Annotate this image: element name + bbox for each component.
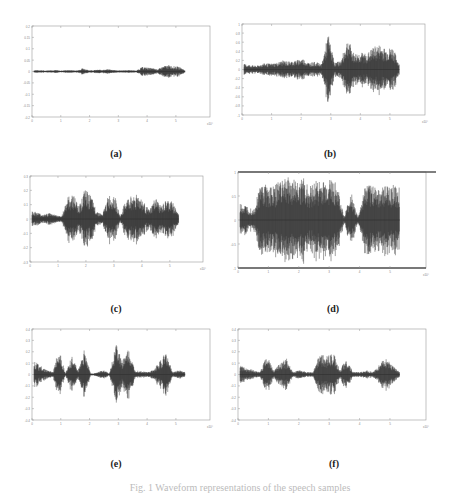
svg-text:x10⁴: x10⁴ [207, 122, 214, 126]
svg-text:0.2: 0.2 [236, 59, 241, 63]
svg-text:0.4: 0.4 [232, 328, 237, 332]
waveform-plot-b: -1-0.8-0.6-0.4-0.200.20.40.60.81012345x1… [232, 20, 437, 125]
svg-text:0: 0 [31, 119, 33, 123]
svg-text:2: 2 [85, 264, 87, 268]
svg-text:4: 4 [146, 119, 148, 123]
svg-text:1: 1 [268, 270, 270, 274]
svg-text:4: 4 [146, 422, 148, 426]
svg-text:3: 3 [328, 422, 330, 426]
waveform-panel-d: -1-0.500.51012345x10⁴ [228, 168, 438, 278]
svg-text:-0.4: -0.4 [231, 419, 237, 423]
svg-text:0.8: 0.8 [236, 32, 241, 36]
svg-text:0: 0 [237, 422, 239, 426]
svg-text:0.2: 0.2 [232, 350, 237, 354]
svg-text:0: 0 [234, 373, 236, 377]
svg-text:-0.4: -0.4 [235, 86, 241, 90]
svg-text:4: 4 [141, 264, 143, 268]
svg-text:-0.6: -0.6 [235, 95, 241, 99]
svg-text:3: 3 [330, 117, 332, 121]
waveform-plot-d: -1-0.500.51012345x10⁴ [228, 168, 438, 278]
svg-text:0.4: 0.4 [236, 50, 241, 54]
svg-text:-0.3: -0.3 [25, 407, 31, 411]
svg-text:2: 2 [89, 119, 91, 123]
svg-text:0: 0 [28, 70, 30, 74]
svg-text:0.2: 0.2 [26, 25, 31, 29]
svg-text:3: 3 [117, 119, 119, 123]
svg-text:0.6: 0.6 [236, 41, 241, 45]
waveform-panel-f: -0.4-0.3-0.2-0.100.10.20.30.4012345x10⁴ [228, 325, 438, 430]
panel-label-e: (e) [96, 458, 136, 469]
svg-text:x10⁴: x10⁴ [207, 425, 214, 429]
svg-text:0: 0 [234, 219, 236, 223]
svg-text:-0.05: -0.05 [23, 81, 30, 85]
svg-text:5: 5 [389, 422, 391, 426]
svg-text:-0.5: -0.5 [231, 243, 237, 247]
svg-text:0.2: 0.2 [26, 350, 31, 354]
svg-text:-0.3: -0.3 [231, 407, 237, 411]
svg-text:-0.3: -0.3 [23, 261, 29, 265]
svg-text:5: 5 [175, 422, 177, 426]
svg-text:0.1: 0.1 [24, 203, 29, 207]
svg-text:1: 1 [238, 23, 240, 27]
svg-text:0.3: 0.3 [26, 339, 31, 343]
svg-text:-0.2: -0.2 [23, 246, 29, 250]
svg-text:-0.1: -0.1 [25, 93, 31, 97]
svg-text:0: 0 [28, 373, 30, 377]
svg-text:0: 0 [26, 218, 28, 222]
panel-label-b: (b) [310, 148, 350, 159]
waveform-panel-b: -1-0.8-0.6-0.4-0.200.20.40.60.81012345x1… [232, 20, 437, 125]
svg-text:-0.1: -0.1 [25, 384, 31, 388]
svg-text:3: 3 [117, 422, 119, 426]
svg-text:-0.2: -0.2 [25, 396, 31, 400]
waveform-plot-a: -0.2-0.15-0.1-0.0500.050.10.150.2012345x… [22, 22, 222, 127]
figure-caption: Fig. 1 Waveform representations of the s… [60, 482, 420, 493]
svg-text:2: 2 [298, 422, 300, 426]
svg-text:4: 4 [359, 422, 361, 426]
svg-text:-0.2: -0.2 [231, 396, 237, 400]
svg-text:0.15: 0.15 [24, 36, 30, 40]
svg-text:x10⁴: x10⁴ [422, 120, 429, 124]
svg-text:5: 5 [389, 270, 391, 274]
svg-text:0.1: 0.1 [26, 362, 31, 366]
svg-text:5: 5 [389, 117, 391, 121]
svg-text:0: 0 [237, 270, 239, 274]
svg-text:0.3: 0.3 [24, 175, 29, 179]
svg-text:4: 4 [359, 270, 361, 274]
svg-text:4: 4 [360, 117, 362, 121]
svg-text:x10⁴: x10⁴ [423, 425, 430, 429]
waveform-panel-c: -0.3-0.2-0.100.10.20.3012345x10⁴ [20, 172, 215, 272]
svg-text:2: 2 [89, 422, 91, 426]
svg-text:5: 5 [169, 264, 171, 268]
svg-text:-1: -1 [237, 114, 240, 118]
panel-label-f: (f) [314, 458, 354, 469]
svg-text:-0.8: -0.8 [235, 104, 241, 108]
svg-text:2: 2 [298, 270, 300, 274]
svg-text:3: 3 [328, 270, 330, 274]
waveform-panel-a: -0.2-0.15-0.1-0.0500.050.10.150.2012345x… [22, 22, 222, 127]
waveform-panel-e: -0.4-0.3-0.2-0.100.10.20.30.4012345x10⁴ [22, 325, 222, 430]
svg-text:0.4: 0.4 [26, 328, 31, 332]
svg-text:0: 0 [238, 68, 240, 72]
svg-text:1: 1 [271, 117, 273, 121]
svg-text:3: 3 [113, 264, 115, 268]
waveform-plot-f: -0.4-0.3-0.2-0.100.10.20.30.4012345x10⁴ [228, 325, 438, 430]
svg-text:-0.1: -0.1 [23, 232, 29, 236]
waveform-plot-e: -0.4-0.3-0.2-0.100.10.20.30.4012345x10⁴ [22, 325, 222, 430]
svg-text:1: 1 [60, 422, 62, 426]
svg-text:0.3: 0.3 [232, 339, 237, 343]
svg-text:2: 2 [300, 117, 302, 121]
svg-text:-1: -1 [233, 267, 236, 271]
svg-text:1: 1 [268, 422, 270, 426]
svg-text:0.05: 0.05 [24, 59, 30, 63]
svg-text:-0.2: -0.2 [25, 116, 31, 120]
svg-text:x10⁴: x10⁴ [200, 267, 207, 271]
panel-label-a: (a) [96, 148, 136, 159]
svg-text:0.2: 0.2 [24, 189, 29, 193]
svg-text:-0.4: -0.4 [25, 419, 31, 423]
svg-text:0: 0 [31, 422, 33, 426]
svg-text:0.1: 0.1 [26, 47, 31, 51]
svg-text:1: 1 [57, 264, 59, 268]
svg-text:-0.2: -0.2 [235, 77, 241, 81]
svg-text:0.1: 0.1 [232, 362, 237, 366]
svg-text:x10⁴: x10⁴ [423, 273, 430, 277]
